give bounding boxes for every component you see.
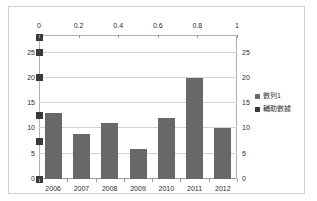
chart-container: 00.20.40.60.8105101520250510152025200620…	[8, 6, 305, 194]
category-tick-label: 2010	[152, 185, 180, 193]
left-axis-tick-label: 0	[19, 175, 35, 183]
top-tickmark	[158, 35, 159, 38]
legend-item[interactable]: 輔助數據	[255, 104, 313, 114]
gridline	[39, 52, 237, 53]
category-tick-label: 2007	[67, 185, 95, 193]
right-axis-tick-label: 0	[242, 175, 258, 183]
right-axis-tick-label: 5	[242, 150, 258, 158]
left-axis-tick-label: 20	[19, 74, 35, 82]
legend-swatch-icon	[255, 94, 260, 99]
category-tick-label: 2011	[181, 185, 209, 193]
gridline	[39, 127, 237, 128]
top-axis-tick-label: 0.8	[185, 22, 209, 30]
left-axis-tick-label: 15	[19, 99, 35, 107]
top-tickmark	[197, 35, 198, 38]
bottom-tickmark	[180, 179, 181, 182]
left-axis-tick-label: 5	[19, 150, 35, 158]
top-axis-tick-label: 0.6	[146, 22, 170, 30]
scatter-marker	[36, 112, 43, 119]
bottom-tickmark	[152, 179, 153, 182]
bar	[45, 113, 62, 179]
bottom-tickmark	[96, 179, 97, 182]
top-tickmark	[39, 35, 40, 38]
left-axis-line	[39, 35, 40, 179]
right-axis-tick-label: 25	[242, 49, 258, 57]
category-tick-label: 2009	[124, 185, 152, 193]
category-tick-label: 2008	[96, 185, 124, 193]
plot-area	[39, 35, 237, 179]
bar	[73, 134, 90, 179]
top-axis-tick-label: 0	[27, 22, 51, 30]
chart-legend: 數列1輔助數據	[255, 91, 313, 117]
bar	[214, 128, 231, 179]
legend-item[interactable]: 數列1	[255, 91, 313, 101]
bottom-tickmark	[67, 179, 68, 182]
bar	[186, 78, 203, 179]
bottom-tickmark	[39, 179, 40, 182]
bottom-tickmark	[237, 179, 238, 182]
bottom-tickmark	[124, 179, 125, 182]
left-axis-tick-label: 10	[19, 124, 35, 132]
top-axis-tick-label: 1	[225, 22, 249, 30]
right-axis-line	[236, 35, 237, 179]
right-axis-tick-label: 20	[242, 74, 258, 82]
right-axis-tick-label: 10	[242, 124, 258, 132]
legend-item-label: 輔助數據	[263, 105, 291, 113]
bar	[158, 118, 175, 179]
top-axis-tick-label: 0.4	[106, 22, 130, 30]
category-tick-label: 2012	[209, 185, 237, 193]
top-tickmark	[79, 35, 80, 38]
top-axis-tick-label: 0.2	[67, 22, 91, 30]
gridline	[39, 77, 237, 78]
legend-item-label: 數列1	[263, 92, 281, 100]
gridline	[39, 102, 237, 103]
top-axis-line	[39, 35, 237, 36]
category-tick-label: 2006	[39, 185, 67, 193]
bottom-tickmark	[209, 179, 210, 182]
left-axis-tick-label: 25	[19, 49, 35, 57]
top-tickmark	[118, 35, 119, 38]
scatter-marker	[36, 138, 43, 145]
top-tickmark	[237, 35, 238, 38]
bar	[101, 123, 118, 179]
bar	[130, 149, 147, 179]
legend-swatch-icon	[255, 107, 260, 112]
scatter-marker	[36, 74, 43, 81]
scatter-marker	[36, 49, 43, 56]
